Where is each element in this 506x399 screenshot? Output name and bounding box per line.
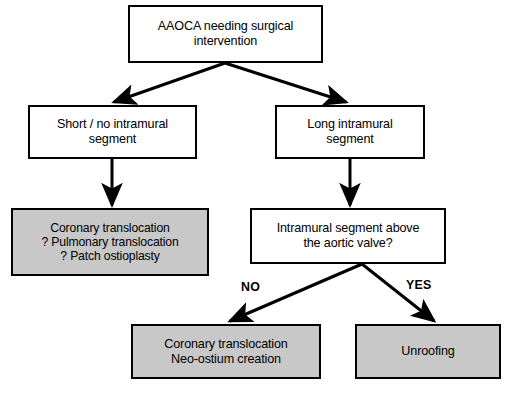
node-coronary-translocation-neo-ostium-creation: Coronary translocation Neo-ostium creati… (131, 324, 321, 379)
node-decision-intramural-segment-above-aortic-valve: Intramural segment above the aortic valv… (250, 208, 446, 264)
node-aaoca-needing-surgical-intervention: AAOCA needing surgical intervention (128, 5, 323, 63)
edge-label-yes: YES (406, 278, 431, 292)
flowchart-diagram: AAOCA needing surgical intervention Shor… (0, 0, 506, 399)
node-short-no-intramural-segment: Short / no intramural segment (28, 105, 197, 159)
arrow-decision-yes-to-unroofing (362, 264, 434, 321)
node-coronary-pulmonary-translocation-patch-ostioplasty: Coronary translocation ? Pulmonary trans… (11, 208, 209, 276)
node-unroofing: Unroofing (355, 324, 501, 379)
node-long-intramural-segment: Long intramural segment (275, 105, 425, 159)
arrow-root-to-long-segment (225, 63, 346, 102)
edge-label-no: NO (241, 280, 260, 294)
arrow-root-to-short-segment (114, 63, 225, 102)
